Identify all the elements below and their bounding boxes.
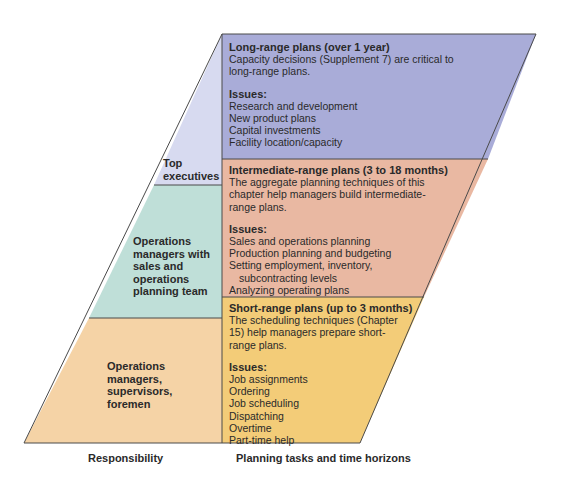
issue-item: Setting employment, inventory, <box>229 259 448 271</box>
desc-line: range plans. <box>229 201 448 213</box>
issue-item: Part-time help <box>229 434 412 446</box>
responsibility-supervisors: Operations managers, supervisors, foreme… <box>107 360 172 410</box>
issues-label: Issues: <box>229 361 412 373</box>
label-line: planning team <box>133 285 210 298</box>
planning-axis-label: Planning tasks and time horizons <box>236 452 411 464</box>
issue-item: Job assignments <box>229 373 412 385</box>
intermediate-range-text: Intermediate-range plans (3 to 18 months… <box>229 164 448 296</box>
label-line: managers, <box>107 373 172 386</box>
issue-item: Analyzing operating plans <box>229 284 448 296</box>
issues-label: Issues: <box>229 88 454 100</box>
label-line: operations <box>133 273 210 286</box>
short-range-title: Short-range plans (up to 3 months) <box>229 302 412 314</box>
label-line: Operations <box>133 235 210 248</box>
label-line: Operations <box>107 360 172 373</box>
label-line: supervisors, <box>107 385 172 398</box>
long-range-text: Long-range plans (over 1 year) Capacity … <box>229 41 454 149</box>
issue-item: Job scheduling <box>229 397 412 409</box>
issue-item: subcontracting levels <box>229 272 448 284</box>
responsibility-operations-managers: Operations managers with sales and opera… <box>133 235 210 298</box>
label-line: executives <box>163 170 219 183</box>
responsibility-axis-label: Responsibility <box>88 452 163 464</box>
desc-line: The aggregate planning techniques of thi… <box>229 176 448 188</box>
issue-item: Production planning and budgeting <box>229 247 448 259</box>
label-line: foremen <box>107 398 172 411</box>
responsibility-top-executives: Top executives <box>163 157 219 182</box>
desc-line: Capacity decisions (Supplement 7) are cr… <box>229 53 454 65</box>
label-line: Top <box>163 157 219 170</box>
issue-item: Dispatching <box>229 410 412 422</box>
issue-item: Overtime <box>229 422 412 434</box>
planning-horizons-diagram: Top executives Operations managers with … <box>0 0 562 482</box>
desc-line: 15) help managers prepare short- <box>229 326 412 338</box>
issue-item: Research and development <box>229 100 454 112</box>
desc-line: long-range plans. <box>229 65 454 77</box>
issues-label: Issues: <box>229 223 448 235</box>
issue-item: Sales and operations planning <box>229 235 448 247</box>
desc-line: chapter help managers build intermediate… <box>229 188 448 200</box>
long-range-title: Long-range plans (over 1 year) <box>229 41 454 53</box>
issue-item: Facility location/capacity <box>229 136 454 148</box>
desc-line: range plans. <box>229 339 412 351</box>
desc-line: The scheduling techniques (Chapter <box>229 314 412 326</box>
issue-item: Ordering <box>229 385 412 397</box>
issue-item: New product plans <box>229 112 454 124</box>
short-range-text: Short-range plans (up to 3 months) The s… <box>229 302 412 446</box>
label-line: managers with <box>133 248 210 261</box>
intermediate-range-title: Intermediate-range plans (3 to 18 months… <box>229 164 448 176</box>
label-line: sales and <box>133 260 210 273</box>
issue-item: Capital investments <box>229 124 454 136</box>
